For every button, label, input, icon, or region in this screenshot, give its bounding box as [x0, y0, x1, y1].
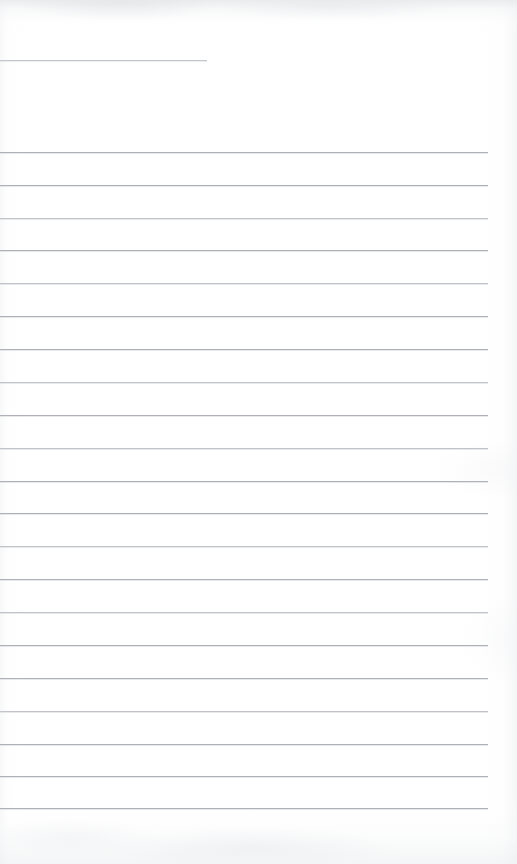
ruled-line: [0, 808, 488, 809]
ruled-line: [0, 678, 488, 679]
ruled-line: [0, 250, 488, 251]
ruled-line: [0, 546, 488, 547]
ruled-line: [0, 316, 488, 317]
ruled-line: [0, 415, 488, 416]
ruled-line: [0, 152, 488, 153]
scanned-page: [0, 0, 517, 864]
ruled-lines-container: [0, 0, 517, 864]
ruled-line: [0, 579, 488, 580]
ruled-line: [0, 612, 488, 613]
ruled-line: [0, 711, 488, 712]
ruled-line: [0, 448, 488, 449]
ruled-line: [0, 349, 488, 350]
ruled-line: [0, 744, 488, 745]
ruled-line: [0, 776, 488, 777]
ruled-line: [0, 481, 488, 482]
ruled-line: [0, 645, 488, 646]
ruled-line: [0, 382, 488, 383]
ruled-line: [0, 218, 488, 219]
ruled-line: [0, 185, 488, 186]
ruled-line: [0, 513, 488, 514]
ruled-line: [0, 283, 488, 284]
